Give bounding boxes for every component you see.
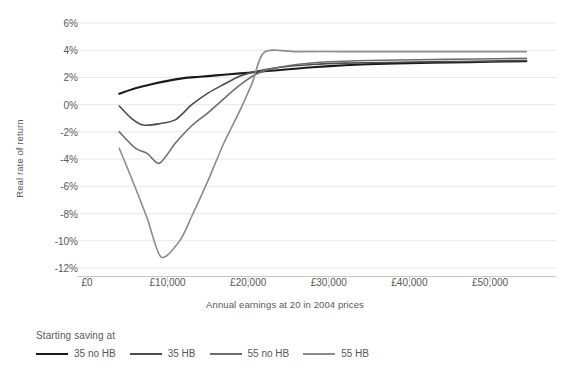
y-tick-label: 2% [34, 72, 78, 83]
legend-title: Starting saving at [36, 330, 536, 341]
series-line [119, 50, 526, 257]
y-tick-label: -10% [34, 235, 78, 246]
gridlines [78, 23, 556, 268]
chart-legend: Starting saving at 35 no HB35 HB55 no HB… [36, 330, 536, 359]
legend-item-label: 35 no HB [74, 348, 116, 359]
chart-container: 6%4%2%0%-2%-4%-6%-8%-10%-12% £0£10,000£2… [0, 0, 570, 375]
legend-swatch-line-icon [130, 353, 162, 355]
legend-swatch-line-icon [36, 353, 68, 355]
x-tick-label: £30,000 [311, 277, 347, 288]
y-tick-label: -8% [34, 208, 78, 219]
series-line [119, 60, 526, 125]
legend-item[interactable]: 35 HB [130, 348, 196, 359]
x-tick-label: £20,000 [230, 277, 266, 288]
legend-swatch-line-icon [303, 353, 335, 355]
legend-item[interactable]: 35 no HB [36, 348, 116, 359]
legend-item-label: 35 HB [168, 348, 196, 359]
x-tick-label: £0 [81, 277, 92, 288]
y-axis-title: Real rate of return [14, 99, 25, 219]
x-tick-label: £10,000 [150, 277, 186, 288]
y-tick-label: -12% [34, 263, 78, 274]
series-line [119, 58, 526, 163]
y-tick-label: 0% [34, 99, 78, 110]
y-axis-tick-labels: 6%4%2%0%-2%-4%-6%-8%-10%-12% [0, 0, 78, 375]
legend-item-label: 55 no HB [248, 348, 290, 359]
x-tick-label: £50,000 [472, 277, 508, 288]
x-tick-label: £40,000 [391, 277, 427, 288]
y-tick-label: -2% [34, 126, 78, 137]
series-line [119, 61, 526, 94]
y-tick-label: 6% [34, 18, 78, 29]
legend-item-label: 55 HB [341, 348, 369, 359]
legend-items: 35 no HB35 HB55 no HB55 HB [36, 348, 536, 359]
data-series-layer [119, 50, 526, 257]
y-tick-label: 4% [34, 45, 78, 56]
legend-item[interactable]: 55 HB [303, 348, 369, 359]
x-axis-title: Annual earnings at 20 in 2004 prices [0, 299, 570, 310]
legend-item[interactable]: 55 no HB [210, 348, 290, 359]
chart-plot-area [0, 0, 570, 375]
x-axis-tick-marks [87, 277, 490, 282]
y-tick-label: -4% [34, 154, 78, 165]
y-tick-label: -6% [34, 181, 78, 192]
legend-swatch-line-icon [210, 353, 242, 355]
